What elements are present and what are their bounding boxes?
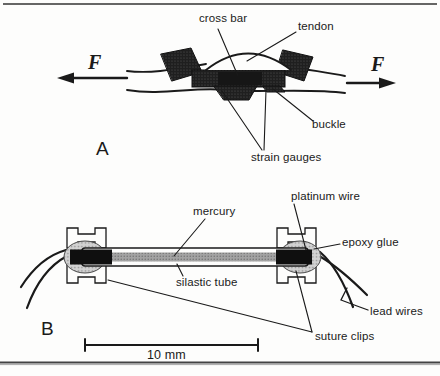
tendon-bump [206, 54, 291, 71]
buckle-label: buckle [312, 119, 346, 131]
bottom-rule [0, 363, 440, 365]
silastic-tube-label: silastic tube [176, 277, 237, 289]
platinum-wire-label: platinum wire [291, 191, 360, 203]
cross-bar [218, 72, 262, 85]
strain-gauges-label: strain gauges [251, 152, 321, 164]
force-arrow-left [57, 73, 127, 84]
force-label-right: F [371, 54, 384, 74]
mercury-column [110, 253, 278, 262]
panel-b-letter: B [41, 319, 54, 338]
epoxy-glue-label: epoxy glue [342, 237, 399, 249]
scale-bar-label: 10 mm [147, 349, 186, 362]
strain-gauge-block [214, 86, 257, 100]
panel-b-leaders [108, 204, 368, 332]
force-arrow-right [347, 78, 396, 89]
suture-clips-label: suture clips [315, 331, 374, 343]
panel-a-drawing [57, 29, 396, 150]
force-label-left: F [88, 52, 101, 72]
platinum-electrode-left [70, 250, 112, 265]
tendon-label: tendon [298, 21, 334, 33]
lead-wires-label: lead wires [370, 306, 423, 318]
cross-bar-label: cross bar [199, 13, 247, 25]
panel-a-letter: A [96, 139, 109, 158]
figure-tendon-transducers: cross bar tendon F F buckle strain gauge… [0, 0, 440, 376]
platinum-electrode-right [276, 250, 312, 265]
mercury-label: mercury [193, 206, 235, 218]
